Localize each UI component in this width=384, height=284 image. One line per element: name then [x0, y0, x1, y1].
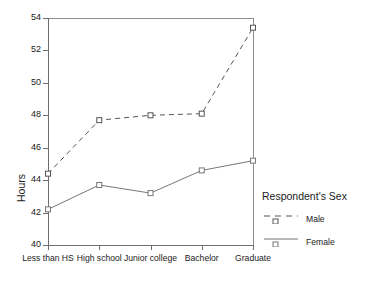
legend: Respondent's Sex MaleFemale — [262, 190, 382, 252]
data-point-marker — [46, 171, 51, 176]
chart-screenshot: 4042444648505254 Hours Less than HSHigh … — [0, 0, 384, 284]
legend-swatch-female — [264, 233, 298, 243]
data-point-marker — [97, 118, 102, 123]
legend-item-female[interactable]: Female — [262, 229, 382, 252]
data-point-marker — [199, 168, 204, 173]
legend-entries: MaleFemale — [262, 206, 382, 252]
legend-label: Female — [306, 237, 335, 247]
data-point-marker — [46, 207, 51, 212]
series-line-male — [48, 28, 253, 174]
legend-item-male[interactable]: Male — [262, 206, 382, 229]
series-line-female — [48, 161, 253, 210]
legend-title: Respondent's Sex — [262, 190, 382, 202]
data-point-marker — [251, 25, 256, 30]
data-point-marker — [148, 113, 153, 118]
data-point-marker — [199, 111, 204, 116]
data-point-marker — [148, 191, 153, 196]
legend-label: Male — [306, 214, 325, 224]
data-point-marker — [251, 158, 256, 163]
data-point-marker — [97, 183, 102, 188]
legend-swatch-male — [264, 210, 298, 220]
